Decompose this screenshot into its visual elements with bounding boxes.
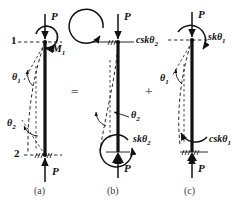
figure-root: P 1 M1 θ1 θ2 2 P P cskθ2 θ2 skθ2 P P skθ…: [0, 0, 239, 207]
deflected-shape-b: [100, 42, 118, 150]
angle-arc-theta2-b: [96, 112, 106, 126]
axial-load-label-bottom-b: P: [124, 163, 131, 174]
panel-c: [168, 12, 210, 178]
stiffness-moment-label-skTheta2-b: skθ2: [133, 134, 151, 147]
moment-subscript: 2: [147, 139, 151, 147]
support-hatch-b: [108, 40, 116, 45]
axial-load-label-top-b: P: [124, 11, 131, 22]
end-moment-symbol: M: [52, 42, 62, 54]
angle-label-theta1-c: θ1: [160, 73, 169, 86]
axial-load-label-top-c: P: [198, 9, 205, 20]
joint-dot-1-b: [116, 40, 120, 44]
deflected-shape-c: [179, 40, 192, 145]
theta-subscript: 1: [165, 78, 169, 86]
stiffness-moment-label-skTheta1-c: skθ1: [208, 32, 226, 45]
axial-load-label-bottom-a: P: [52, 166, 59, 177]
panel-a: [18, 14, 62, 182]
angle-arc-theta1-c: [176, 69, 182, 84]
tangent-line-bottom-a: [22, 120, 45, 155]
tangent-line-top-c: [172, 42, 192, 76]
node-label-2-a: 2: [14, 148, 20, 159]
caption-b: (b): [107, 186, 119, 196]
axial-load-label-top-a: P: [51, 11, 58, 22]
moment-symbol: cskθ: [209, 133, 228, 144]
joint-dot-1-a: [43, 40, 47, 44]
panel-b: [69, 9, 134, 178]
plus-operator: +: [145, 84, 152, 97]
carryover-moment-label-cskTheta2-b: cskθ2: [136, 35, 158, 48]
moment-subscript: 2: [155, 40, 159, 48]
moment-arrow-cskTheta1-c: [181, 133, 207, 142]
moment-arrow-cskTheta2-b: [69, 9, 103, 43]
angle-label-theta1-a: θ1: [12, 72, 21, 85]
joint-dot-1-c: [190, 38, 194, 42]
end-moment-label-M1-a: M1: [52, 43, 65, 57]
figure-vector-layer: [0, 0, 239, 207]
angle-arc-theta1-a: [28, 70, 33, 86]
angle-label-theta2-a: θ2: [7, 118, 16, 131]
caption-c: (c): [184, 186, 195, 196]
joint-dot-2-a: [43, 153, 47, 157]
caption-a: (a): [34, 186, 45, 196]
end-moment-subscript: 1: [62, 49, 66, 57]
theta-subscript: 1: [17, 77, 21, 85]
support-triangle-b: [112, 152, 124, 163]
moment-symbol: cskθ: [136, 34, 155, 45]
moment-subscript: 1: [228, 139, 232, 147]
equals-operator: =: [71, 85, 78, 98]
angle-label-theta2-b: θ2: [131, 110, 140, 123]
theta-subscript: 2: [12, 123, 16, 131]
moment-symbol: skθ: [208, 31, 222, 42]
axial-load-label-bottom-c: P: [198, 163, 205, 174]
carryover-moment-label-cskTheta1-c: cskθ1: [209, 134, 231, 147]
moment-symbol: skθ: [133, 133, 147, 144]
theta-subscript: 2: [136, 115, 140, 123]
node-label-1-a: 1: [11, 35, 17, 46]
moment-subscript: 1: [222, 37, 226, 45]
theta2-leader-b: [114, 112, 129, 117]
